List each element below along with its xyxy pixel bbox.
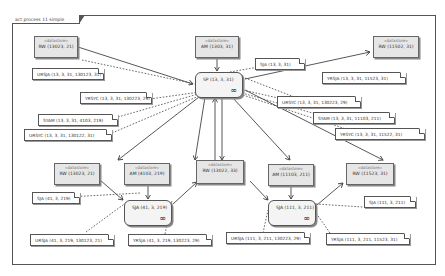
process-label: SJA (111, 3, 211) (276, 205, 314, 210)
note-sja-41: SJA (41, 3, 219) (32, 192, 80, 204)
infinity-icon: ∞ (303, 215, 310, 223)
note-ursja-41: URSJA (41, 3, 219, 130123, 21) (30, 234, 114, 246)
datastore-label: RW (13023, 21) (38, 44, 73, 49)
datastore-am-top[interactable]: «datastore» AM (1303, 31) (195, 36, 239, 58)
note-yrsyc-right: YRSYC (13, 3, 31, 11522, 31) (335, 128, 425, 140)
datastore-am-mid-right[interactable]: «datastore» AM (11103, 211) (268, 164, 314, 186)
note-syam-11103: SYAM (13, 3, 31, 11103, 211) (313, 112, 395, 124)
datastore-rw-mid-center[interactable]: «datastore» RW (13022, 33) (196, 160, 244, 184)
datastore-rw-top-left[interactable]: «datastore» RW (13023, 21) (34, 36, 78, 58)
note-ursja-111: URSJA (111, 3, 211, 130223, 29) (226, 232, 310, 244)
process-sja-41[interactable]: SJA (41, 3, 219) ∞ (124, 200, 172, 226)
note-ursja-13: URSJA (13, 3, 31, 130123, 31) (32, 68, 104, 80)
datastore-rw-mid-left[interactable]: «datastore» RW (13023, 21) (54, 163, 100, 185)
infinity-icon: ∞ (159, 215, 166, 223)
datastore-label: AM (11103, 211) (272, 172, 310, 177)
note-yrsja-13: YRSJA (13, 3, 31, 11523, 31) (322, 72, 406, 84)
datastore-label: RW (13023, 21) (59, 171, 94, 176)
infinity-icon: ∞ (230, 87, 237, 95)
datastore-rw-top-right[interactable]: «datastore» RW (11502, 31) (373, 36, 419, 58)
note-ursyc-right: URSYC (13, 3, 31, 130223, 29) (277, 96, 361, 108)
datastore-label: AM (4103, 219) (130, 171, 165, 176)
process-sja-111[interactable]: SJA (111, 3, 211) ∞ (268, 200, 316, 226)
datastore-am-mid-left[interactable]: «datastore» AM (4103, 219) (124, 163, 170, 185)
datastore-label: RW (11502, 31) (378, 44, 413, 49)
note-ursyc-left: URSYC (13, 3, 31, 130122, 31) (24, 129, 112, 141)
datastore-label: RW (11523, 31) (352, 171, 387, 176)
note-sja-111: SJA (111, 3, 211) (364, 196, 416, 208)
note-yrsyc-left: YRSYC (13, 3, 31, 130223, 29) (80, 92, 152, 104)
note-yrsja-41: YRSJA (41, 3, 219, 130223, 29) (128, 234, 212, 246)
datastore-label: AM (1303, 31) (201, 44, 233, 49)
process-label: SP (13, 3, 31) (203, 77, 234, 82)
datastore-rw-mid-right[interactable]: «datastore» RW (11523, 31) (346, 163, 394, 185)
datastore-label: RW (13022, 33) (202, 168, 237, 173)
process-label: SJA (41, 3, 219) (132, 205, 167, 210)
process-sp[interactable]: SP (13, 3, 31) ∞ (195, 72, 243, 98)
note-sja-13: SJA (13, 3, 31) (255, 58, 305, 70)
note-syam-4103: SYAM (13, 3, 31, 4103, 219) (38, 114, 118, 126)
note-yrsja-111: YRSJA (111, 3, 211, 11523, 31) (326, 233, 410, 245)
